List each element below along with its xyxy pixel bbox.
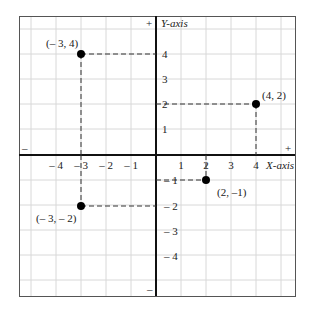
- point-4-2: [252, 100, 260, 108]
- x-negative-marker: –: [21, 142, 28, 154]
- svg-text:– 3: – 3: [73, 159, 88, 171]
- point-label-neg3-neg2: (– 3, – 2): [36, 212, 77, 225]
- point-label-neg3-4: (– 3, 4): [46, 37, 78, 50]
- svg-text:4: 4: [162, 48, 168, 60]
- y-positive-marker: +: [146, 17, 152, 29]
- svg-text:2: 2: [203, 159, 209, 171]
- point-label-4-2: (4, 2): [262, 89, 286, 102]
- y-axis-label: Y-axis: [161, 17, 188, 29]
- point-2-neg1: [202, 176, 210, 184]
- point-neg3-neg2: [77, 202, 85, 210]
- svg-text:3: 3: [162, 73, 168, 85]
- svg-text:– 4: – 4: [163, 250, 178, 262]
- x-positive-marker: +: [285, 142, 291, 154]
- coordinate-plane: – 4 – 3 – 2 – 1 1 2 3 4 4 3 2 1 – 1 – 2 …: [0, 0, 309, 312]
- svg-text:2: 2: [162, 98, 168, 110]
- svg-text:1: 1: [162, 123, 168, 135]
- svg-text:3: 3: [228, 159, 234, 171]
- svg-text:– 3: – 3: [163, 225, 178, 237]
- svg-text:1: 1: [178, 159, 184, 171]
- svg-text:– 1: – 1: [163, 174, 178, 186]
- point-label-2-neg1: (2, –1): [217, 186, 247, 199]
- svg-text:– 2: – 2: [163, 200, 178, 212]
- y-negative-marker: –: [146, 283, 153, 295]
- svg-text:– 1: – 1: [123, 159, 138, 171]
- x-axis-label: X-axis: [265, 159, 294, 171]
- svg-text:– 2: – 2: [98, 159, 113, 171]
- point-neg3-4: [77, 50, 85, 58]
- svg-text:4: 4: [253, 159, 259, 171]
- x-tick-labels: – 4 – 3 – 2 – 1 1 2 3 4: [48, 159, 259, 171]
- svg-text:– 4: – 4: [48, 159, 63, 171]
